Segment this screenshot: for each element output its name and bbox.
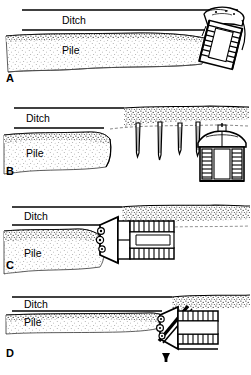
panel-d-cutter (157, 316, 165, 339)
panel-d-letter: D (6, 347, 14, 359)
panel-d-machine (157, 306, 218, 349)
panel-d-pile-label: Pile (24, 316, 42, 328)
panel-c-artwork: Ditch Pile (0, 193, 251, 285)
panel-d-artwork: Ditch Pile (0, 285, 251, 375)
panel-b-machine (198, 123, 246, 181)
panel-b-artwork: Ditch Pile (0, 95, 251, 193)
panel-a-pile-label: Pile (62, 44, 80, 56)
panel-c-machine (96, 217, 174, 263)
panel-b: Ditch Pile (0, 95, 251, 193)
panel-c-ditch-label: Ditch (24, 210, 48, 222)
panel-a: Ditch Pile (0, 0, 251, 95)
panel-b-letter: B (6, 165, 14, 177)
panel-a-letter: A (6, 72, 14, 84)
panel-c-pile-label: Pile (24, 247, 42, 259)
panel-c-letter: C (6, 259, 14, 271)
panel-b-pile-label: Pile (26, 147, 44, 159)
panel-a-machine (199, 7, 245, 69)
panel-b-ditch-label: Ditch (26, 112, 50, 124)
panel-a-ditch-label: Ditch (62, 14, 86, 26)
panel-a-artwork: Ditch Pile (0, 0, 251, 95)
panel-c: Ditch Pile (0, 193, 251, 285)
figure-trenching-sequence: Ditch Pile (0, 0, 251, 375)
panel-d: Ditch Pile (0, 285, 251, 375)
panel-d-up-arrow-marker (162, 353, 170, 362)
panel-d-ditch-label: Ditch (24, 298, 48, 310)
panel-b-stakes (136, 122, 200, 160)
